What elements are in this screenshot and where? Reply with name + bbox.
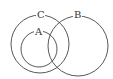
label-b: B [74, 9, 81, 20]
label-a: A [34, 26, 43, 37]
label-c: C [37, 9, 45, 20]
circle-c [11, 15, 69, 73]
set-b: B [48, 9, 108, 76]
venn-diagram: C A B [0, 0, 113, 79]
set-c: C [11, 9, 69, 73]
